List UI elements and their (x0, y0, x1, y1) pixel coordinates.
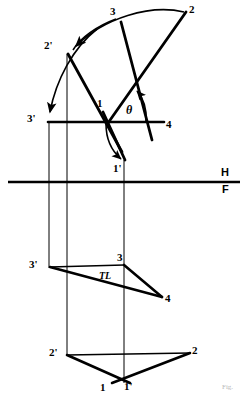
label-reference-h: H (221, 167, 229, 178)
front-view-group (50, 265, 190, 383)
top-line-2-1 (108, 12, 186, 123)
front-line-2prime-2 (67, 353, 190, 355)
label-top-point-2: 2 (189, 4, 195, 15)
label-front-point-3: 3 (117, 252, 123, 263)
label-top-point-2-prime: 2' (44, 40, 53, 51)
arc-3-to-3prime (50, 29, 97, 112)
label-reference-f: F (222, 184, 229, 195)
label-angle-theta: θ (126, 104, 132, 116)
label-true-length: TL (99, 271, 111, 281)
label-top-point-1: 1 (97, 98, 103, 109)
label-top-point-4: 4 (166, 119, 172, 130)
label-top-point-1-prime: 1' (113, 163, 122, 174)
technical-drawing-svg (0, 0, 247, 393)
label-front-point-1: 1 (100, 382, 106, 393)
label-front-point-1-prime: 1' (124, 381, 133, 392)
label-top-point-3-prime: 3' (27, 113, 36, 124)
label-front-point-3-prime: 3' (29, 259, 38, 270)
label-front-point-4: 4 (165, 293, 171, 304)
figure-canvas: 2' 3 2 3' 1 4 1' θ H F 3' 3 TL 4 2' 2 1 … (0, 0, 247, 393)
label-front-point-2: 2 (192, 345, 198, 356)
label-top-point-3: 3 (110, 6, 116, 17)
arc-2-to-2prime (76, 10, 184, 46)
projection-lines (49, 54, 124, 383)
caption-fragment: Fig. (222, 383, 233, 391)
rotation-arcs-group (50, 10, 184, 159)
front-line-3prime-3 (50, 265, 124, 267)
top-view-group (48, 12, 186, 160)
top-line-1-tail (103, 112, 125, 160)
label-front-point-2-prime: 2' (49, 347, 58, 358)
